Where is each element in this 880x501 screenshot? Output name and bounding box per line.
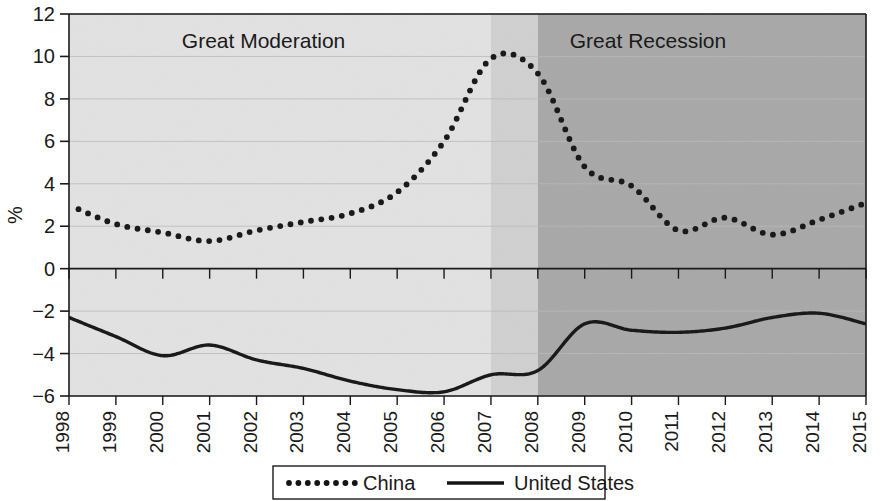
svg-text:2002: 2002 (240, 411, 261, 453)
svg-text:10: 10 (33, 45, 55, 67)
svg-text:2013: 2013 (755, 411, 776, 453)
annotation-great-recession: Great Recession (570, 29, 726, 52)
x-axis-tick-labels: 1998199920002001200220032004200520062007… (52, 411, 870, 454)
svg-text:2: 2 (44, 215, 55, 237)
svg-text:2007: 2007 (474, 411, 495, 453)
svg-text:2000: 2000 (146, 411, 167, 453)
svg-text:2008: 2008 (521, 411, 542, 453)
svg-text:1999: 1999 (99, 411, 120, 453)
svg-text:−4: −4 (32, 343, 55, 365)
svg-text:6: 6 (44, 130, 55, 152)
svg-text:2011: 2011 (661, 411, 682, 452)
y-axis-tick-labels: −6−4−2024681012 (32, 3, 55, 407)
svg-text:2001: 2001 (193, 411, 214, 453)
svg-text:4: 4 (44, 173, 55, 195)
chart-legend: China United States (273, 466, 634, 499)
svg-text:2009: 2009 (568, 411, 589, 453)
svg-text:2015: 2015 (849, 411, 870, 453)
legend-label-china: China (363, 472, 416, 494)
svg-text:2014: 2014 (802, 411, 823, 454)
svg-text:2010: 2010 (615, 411, 636, 453)
y-axis-title: % (4, 206, 26, 224)
svg-text:8: 8 (44, 88, 55, 110)
svg-text:−2: −2 (32, 300, 55, 322)
svg-text:12: 12 (33, 3, 55, 25)
x-axis-ticks-bottom (69, 396, 866, 405)
annotation-great-moderation: Great Moderation (182, 29, 345, 52)
y-axis-ticks (60, 14, 69, 396)
svg-text:2004: 2004 (333, 411, 354, 454)
svg-text:2012: 2012 (708, 411, 729, 453)
legend-label-united-states: United States (514, 472, 634, 494)
chart-canvas: −6−4−2024681012 199819992000200120022003… (0, 0, 880, 501)
svg-text:1998: 1998 (52, 411, 73, 453)
svg-text:2006: 2006 (427, 411, 448, 453)
svg-text:0: 0 (44, 258, 55, 280)
svg-text:−6: −6 (32, 385, 55, 407)
era-bands (69, 14, 866, 396)
chart-figure: −6−4−2024681012 199819992000200120022003… (0, 0, 880, 501)
svg-text:2003: 2003 (286, 411, 307, 453)
svg-text:2005: 2005 (380, 411, 401, 453)
